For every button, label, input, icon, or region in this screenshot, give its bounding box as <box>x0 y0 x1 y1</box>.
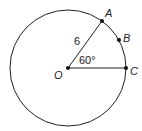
label-A: A <box>104 7 112 19</box>
label-O: O <box>54 69 63 81</box>
point-C <box>124 66 128 70</box>
point-B <box>117 38 121 42</box>
angle-label: 60° <box>79 54 96 66</box>
radius-label: 6 <box>74 35 80 47</box>
label-B: B <box>123 32 130 44</box>
circle-diagram: A B C O 6 60° <box>0 0 142 131</box>
label-C: C <box>130 65 138 77</box>
point-A <box>100 19 104 23</box>
point-O <box>66 66 70 70</box>
